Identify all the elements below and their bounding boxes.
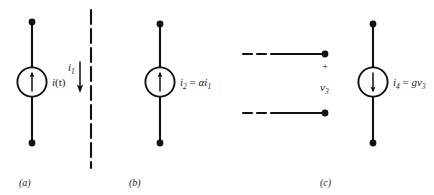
controlling-current-label: i1 xyxy=(68,62,75,73)
circuit-d-top-terminal-dot xyxy=(370,21,377,28)
circuit-c-plus-polarity: + xyxy=(322,61,328,72)
caption-b: (b) xyxy=(129,178,141,188)
circuit-c-graphics xyxy=(243,51,328,117)
circuit-a-top-terminal-dot xyxy=(29,19,36,26)
circuit-b-graphics xyxy=(145,21,174,147)
circuit-b-top-terminal-dot xyxy=(157,21,164,28)
caption-c: (c) xyxy=(320,178,331,188)
circuit-c-bottom-terminal-dot xyxy=(322,110,329,117)
controlling-branch-graphics xyxy=(77,10,91,168)
circuit-c-top-terminal-dot xyxy=(322,51,329,58)
circuit-b-bottom-terminal-dot xyxy=(157,140,164,147)
circuit-drawing-layer xyxy=(0,0,434,195)
circuit-a-bottom-terminal-dot xyxy=(29,140,36,147)
caption-a: (a) xyxy=(19,178,31,188)
circuit-a-graphics xyxy=(17,19,46,147)
circuit-figure: i(t) i1 i2 = αi1 + v3 i4 = gv3 (a) (b) (… xyxy=(0,0,434,195)
circuit-b-current-label: i2 = αi1 xyxy=(180,77,211,88)
circuit-d-current-label: i4 = gv3 xyxy=(393,77,426,88)
circuit-d-graphics xyxy=(358,21,387,147)
circuit-a-current-label: i(t) xyxy=(52,77,65,88)
circuit-d-bottom-terminal-dot xyxy=(370,140,377,147)
circuit-c-voltage-label: v3 xyxy=(320,82,329,93)
